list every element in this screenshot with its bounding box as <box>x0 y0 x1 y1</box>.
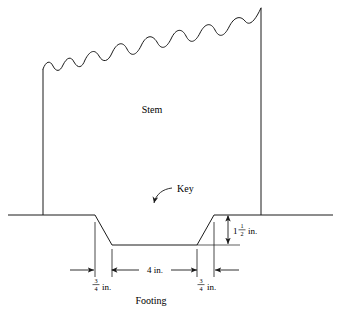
left-frac-denominator: 4 <box>94 285 97 292</box>
right-frac-denominator: 4 <box>199 285 202 292</box>
right-frac-unit: in. <box>207 282 216 292</box>
depth-whole-number: 1 <box>233 226 238 236</box>
left-frac-numerator: 3 <box>94 277 97 284</box>
footing-caption: Footing <box>135 295 166 306</box>
dimension-label-depth: 1 1 2 in. <box>233 222 257 237</box>
footing-profile <box>8 215 333 245</box>
key-label: Key <box>177 183 194 194</box>
key-callout: Key <box>154 183 194 203</box>
stem-label: Stem <box>142 104 163 115</box>
diagram-canvas: Key Stem 4 in. 3 4 in. <box>0 0 341 312</box>
dimension-left-slope-run: 3 4 in. <box>70 270 137 292</box>
key-leader-line <box>154 188 172 203</box>
left-frac-unit: in. <box>102 282 111 292</box>
footing-key-diagram: Key Stem 4 in. 3 4 in. <box>0 0 341 312</box>
dimension-right-slope-run: 3 4 in. <box>198 270 240 292</box>
depth-frac-denominator: 2 <box>240 230 243 237</box>
dimension-label-right-frac: 3 4 in. <box>198 277 217 292</box>
dimension-label-4in: 4 in. <box>147 265 163 275</box>
footing-top-line-with-key <box>8 215 333 245</box>
dimension-key-depth: 1 1 2 in. <box>197 216 257 245</box>
depth-unit: in. <box>248 226 257 236</box>
stem-break-line <box>43 8 261 70</box>
depth-frac-numerator: 1 <box>240 222 243 229</box>
dimension-label-left-frac: 3 4 in. <box>93 277 112 292</box>
right-frac-numerator: 3 <box>199 277 202 284</box>
